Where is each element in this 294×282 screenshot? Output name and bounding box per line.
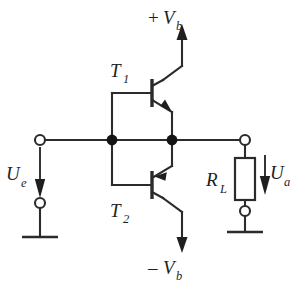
output-voltage-subscript: a — [284, 175, 290, 189]
input-terminal-bottom[interactable] — [35, 198, 45, 208]
negative-supply-subscript: b — [176, 269, 182, 282]
positive-supply-label: + V b — [148, 7, 182, 33]
circuit-diagram: + V b – V b T 1 T 2 U e R L — [0, 0, 294, 282]
negative-supply-sign: – — [147, 257, 158, 278]
t2-collector-lead — [163, 198, 182, 212]
negative-supply-label: – V b — [147, 257, 182, 282]
output-voltage-symbol: U — [270, 162, 285, 183]
positive-supply-sign: + — [148, 7, 159, 28]
positive-supply-subscript: b — [176, 19, 182, 33]
t1-label-symbol: T — [110, 60, 122, 81]
output-junction-dot — [167, 135, 178, 146]
input-voltage-subscript: e — [21, 176, 27, 190]
base-junction-dot — [107, 135, 118, 146]
transistor-t1 — [112, 79, 172, 140]
output-terminal-top[interactable] — [240, 135, 250, 145]
t2-label-symbol: T — [110, 200, 122, 221]
input-voltage-symbol: U — [6, 163, 21, 184]
t1-label-subscript: 1 — [123, 72, 129, 86]
t2-label: T 2 — [110, 200, 129, 226]
negative-supply-branch — [163, 198, 188, 253]
schematic-canvas: + V b – V b T 1 T 2 U e R L — [0, 0, 294, 282]
negative-supply-symbol: V — [163, 257, 177, 278]
transistor-t2 — [112, 140, 172, 199]
t1-collector-lead — [163, 66, 182, 80]
output-voltage-label: U a — [270, 162, 290, 189]
t2-label-subscript: 2 — [123, 212, 129, 226]
load-symbol: R — [205, 169, 218, 190]
negative-supply-arrow-icon — [177, 237, 188, 253]
output-terminal-bottom[interactable] — [240, 206, 250, 216]
input-voltage-label: U e — [6, 163, 27, 190]
load-resistor-symbol — [235, 158, 255, 200]
input-port — [22, 135, 58, 237]
load-subscript: L — [219, 182, 227, 196]
output-port — [227, 135, 270, 232]
t1-label: T 1 — [110, 60, 129, 86]
input-voltage-arrow-icon — [35, 179, 45, 198]
output-voltage-arrow-icon — [260, 176, 270, 195]
load-label: R L — [205, 169, 227, 196]
positive-supply-symbol: V — [163, 7, 177, 28]
t1-emitter-arrow-icon — [160, 99, 172, 112]
input-terminal-top[interactable] — [35, 135, 45, 145]
